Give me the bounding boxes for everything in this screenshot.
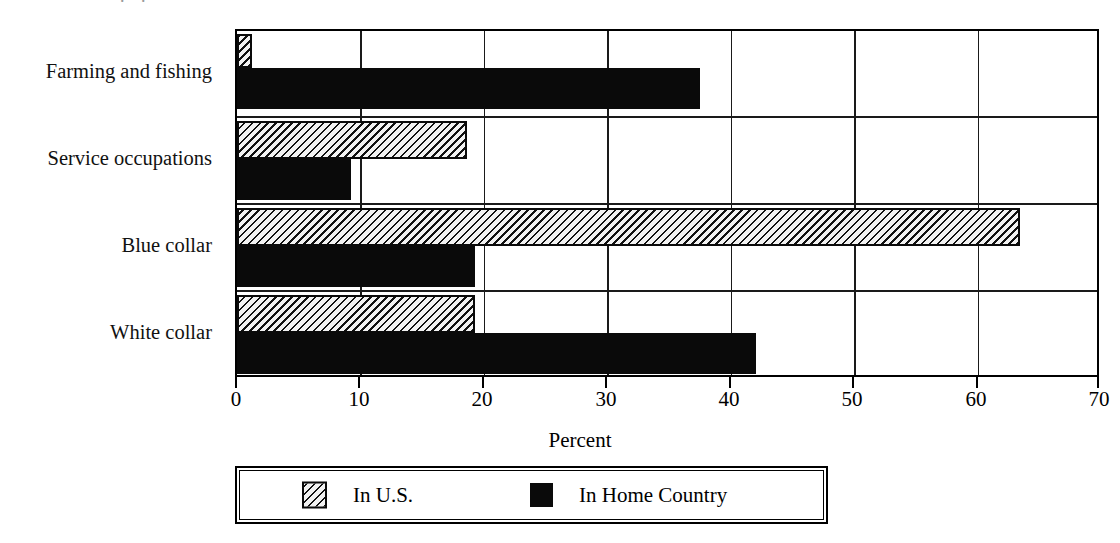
x-axis-tick-labels: 0 10 20 30 40 50 60 70: [0, 389, 1120, 417]
legend-label-in-home-country: In Home Country: [579, 485, 727, 506]
bar-service-occupations-in-us: [237, 121, 467, 159]
x-tick-label-10: 10: [349, 389, 370, 410]
x-tick-label-0: 0: [231, 389, 242, 410]
legend-swatch-solid-icon: [530, 483, 553, 507]
category-separator-1: [237, 116, 1097, 118]
y-axis-label-farming-and-fishing: Farming and fishing: [0, 61, 212, 82]
category-separator-2: [237, 203, 1097, 205]
legend-item-in-home-country: In Home Country: [530, 483, 727, 507]
y-axis-label-blue-collar: Blue collar: [0, 235, 212, 256]
legend-swatch-hatched-icon: [302, 482, 327, 509]
y-axis-label-white-collar: White collar: [0, 322, 212, 343]
bar-chart: . . Farming and fishing Service occupati…: [0, 0, 1120, 543]
x-axis-title-text: Percent: [549, 430, 612, 451]
legend-label-in-us: In U.S.: [353, 485, 413, 506]
chart-legend: In U.S. In Home Country: [235, 466, 828, 524]
x-tick-label-40: 40: [719, 389, 740, 410]
category-separator-3: [237, 290, 1097, 292]
x-tick-label-70: 70: [1089, 389, 1110, 410]
x-tick-label-30: 30: [596, 389, 617, 410]
bar-service-occupations-in-home-country: [237, 159, 351, 200]
cropped-caption-remnant: . .: [0, 0, 1120, 7]
bar-blue-collar-in-us: [237, 208, 1020, 246]
bar-farming-and-fishing-in-us: [237, 34, 252, 68]
x-tick-label-20: 20: [472, 389, 493, 410]
x-axis-title: Percent: [0, 430, 1120, 451]
bar-white-collar-in-us: [237, 295, 475, 333]
y-axis-category-labels: Farming and fishing Service occupations …: [0, 29, 212, 377]
legend-item-in-us: In U.S.: [302, 482, 413, 509]
x-tick-label-60: 60: [966, 389, 987, 410]
bar-white-collar-in-home-country: [237, 333, 756, 374]
bar-blue-collar-in-home-country: [237, 246, 475, 287]
x-tick-label-50: 50: [842, 389, 863, 410]
bar-farming-and-fishing-in-home-country: [237, 68, 700, 109]
y-axis-label-service-occupations: Service occupations: [0, 148, 212, 169]
plot-area: [235, 29, 1099, 377]
